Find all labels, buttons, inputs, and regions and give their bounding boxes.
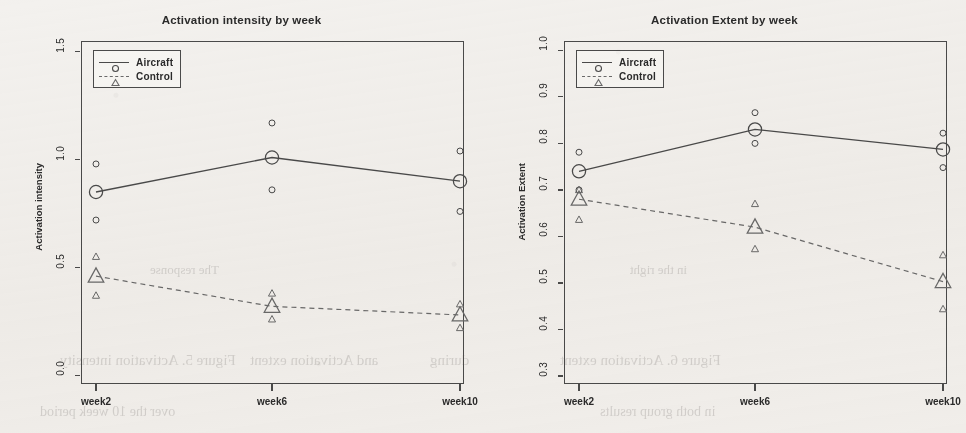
chart-panel-activation-intensity: Activation intensity by week Activation … xyxy=(0,0,483,433)
error-marker xyxy=(92,253,99,259)
error-marker xyxy=(93,161,99,167)
error-marker xyxy=(752,140,758,146)
error-marker xyxy=(269,120,275,126)
error-marker xyxy=(576,149,582,155)
series-aircraft xyxy=(572,110,949,193)
legend-item-aircraft: Aircraft xyxy=(99,55,173,69)
error-marker xyxy=(268,290,275,296)
series-layer xyxy=(0,0,483,433)
series-aircraft xyxy=(89,120,466,223)
legend-swatch-triangle-icon xyxy=(99,70,129,82)
legend-label-aircraft: Aircraft xyxy=(619,57,656,68)
legend-label-control: Control xyxy=(619,71,656,82)
legend-label-aircraft: Aircraft xyxy=(136,57,173,68)
legend-item-control: Control xyxy=(99,69,173,83)
data-point-marker xyxy=(452,307,468,321)
series-line xyxy=(579,199,943,281)
error-marker xyxy=(93,217,99,223)
series-line xyxy=(579,129,943,171)
error-marker xyxy=(268,316,275,322)
data-point-marker xyxy=(88,268,104,282)
legend-label-control: Control xyxy=(136,71,173,82)
series-line xyxy=(96,157,460,192)
error-marker xyxy=(940,130,946,136)
series-layer xyxy=(483,0,966,433)
legend: Aircraft Control xyxy=(93,50,181,88)
error-marker xyxy=(456,324,463,330)
data-point-marker xyxy=(935,273,951,287)
error-marker xyxy=(92,292,99,298)
legend-swatch-triangle-icon xyxy=(582,70,612,82)
error-marker xyxy=(751,200,758,206)
legend-swatch-circle-icon xyxy=(582,56,612,68)
error-marker xyxy=(751,245,758,251)
legend-swatch-circle-icon xyxy=(99,56,129,68)
error-marker xyxy=(940,165,946,171)
legend-item-control: Control xyxy=(582,69,656,83)
legend-item-aircraft: Aircraft xyxy=(582,55,656,69)
error-marker xyxy=(457,148,463,154)
error-marker xyxy=(457,208,463,214)
chart-panel-activation-extent: Activation Extent by week Activation Ext… xyxy=(483,0,966,433)
error-marker xyxy=(575,216,582,222)
series-control xyxy=(571,186,951,312)
legend: Aircraft Control xyxy=(576,50,664,88)
error-marker xyxy=(939,251,946,257)
error-marker xyxy=(939,305,946,311)
series-control xyxy=(88,253,468,331)
error-marker xyxy=(752,110,758,116)
error-marker xyxy=(269,187,275,193)
